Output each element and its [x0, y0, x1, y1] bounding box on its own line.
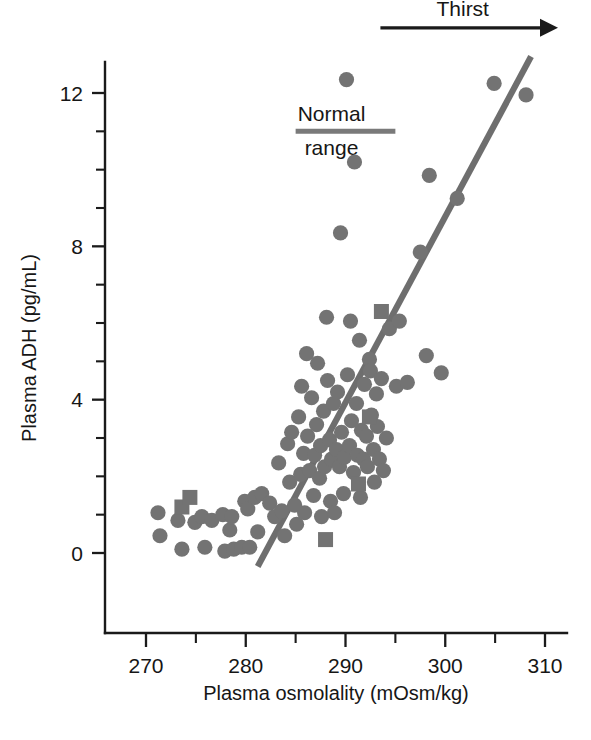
- data-point-circle: [487, 76, 502, 91]
- data-point-circle: [392, 313, 407, 328]
- data-point-circle: [297, 505, 312, 520]
- y-axis-title: Plasma ADH (pg/mL): [18, 254, 40, 442]
- y-tick-label: 8: [71, 235, 83, 258]
- data-point-square: [374, 304, 389, 319]
- data-point-circle: [174, 542, 189, 557]
- data-point-circle: [170, 513, 185, 528]
- thirst-label: Thirst: [436, 0, 489, 20]
- data-point-circle: [291, 409, 306, 424]
- data-point-square: [182, 490, 197, 505]
- x-tick-label: 290: [328, 654, 363, 677]
- chart-figure: 04812 270280290300310 Plasma osmolality …: [0, 0, 591, 740]
- x-tick-label: 300: [428, 654, 463, 677]
- data-point-circle: [334, 425, 349, 440]
- x-tick-label: 270: [128, 654, 163, 677]
- data-point-circle: [197, 540, 212, 555]
- data-point-circle: [400, 375, 415, 390]
- data-point-circle: [222, 522, 237, 537]
- thirst-annotation: Thirst: [380, 0, 558, 37]
- normal-range-label-line1: Normal: [298, 102, 366, 125]
- data-point-circle: [357, 377, 372, 392]
- x-axis-title: Plasma osmolality (mOsm/kg): [203, 682, 469, 704]
- data-point-circle: [277, 528, 292, 543]
- y-axis-ticks: [92, 93, 105, 553]
- data-point-square: [362, 409, 377, 424]
- data-point-circle: [343, 313, 358, 328]
- x-tick-label: 280: [228, 654, 263, 677]
- data-point-circle: [242, 540, 257, 555]
- data-point-circle: [434, 365, 449, 380]
- data-point-circle: [224, 509, 239, 524]
- x-axis-ticks: [146, 633, 545, 647]
- y-tick-label: 0: [71, 542, 83, 565]
- x-axis-tick-labels: 270280290300310: [128, 654, 562, 677]
- data-point-circle: [339, 72, 354, 87]
- data-point-circle: [294, 379, 309, 394]
- data-point-square: [318, 532, 333, 547]
- data-point-circle: [340, 367, 355, 382]
- scatter-plot-svg: 04812 270280290300310 Plasma osmolality …: [0, 0, 591, 740]
- y-axis-tick-labels: 04812: [60, 82, 84, 565]
- data-point-circle: [450, 191, 465, 206]
- data-point-circle: [250, 524, 265, 539]
- data-point-circle: [369, 386, 384, 401]
- data-point-circle: [376, 463, 391, 478]
- data-point-circle: [327, 505, 342, 520]
- data-point-circle: [518, 87, 533, 102]
- thirst-arrow-head: [540, 19, 558, 37]
- data-point-circle: [271, 455, 286, 470]
- data-point-circle: [379, 430, 394, 445]
- data-point-circle: [352, 333, 367, 348]
- data-point-circle: [333, 225, 348, 240]
- data-point-circle: [319, 310, 334, 325]
- data-point-circle: [310, 356, 325, 371]
- data-point-circle: [422, 168, 437, 183]
- data-point-circle: [314, 509, 329, 524]
- data-point-circle: [419, 348, 434, 363]
- data-point-circle: [306, 488, 321, 503]
- y-tick-label: 12: [60, 82, 83, 105]
- data-point-circle: [284, 425, 299, 440]
- x-tick-label: 310: [527, 654, 562, 677]
- data-point-circle: [304, 390, 319, 405]
- data-point-circle: [152, 528, 167, 543]
- data-point-circle: [336, 486, 351, 501]
- normal-range-annotation: Normal range: [296, 102, 396, 159]
- y-tick-label: 4: [71, 388, 83, 411]
- data-point-circle: [330, 384, 345, 399]
- data-point-square: [351, 477, 366, 492]
- data-point-circle: [309, 417, 324, 432]
- data-point-circle: [347, 154, 362, 169]
- data-point-circle: [320, 373, 335, 388]
- data-point-circle: [413, 244, 428, 259]
- data-point-circle: [374, 371, 389, 386]
- data-point-circle: [349, 396, 364, 411]
- data-point-circle: [150, 505, 165, 520]
- data-point-circle: [274, 503, 289, 518]
- data-point-circle: [353, 490, 368, 505]
